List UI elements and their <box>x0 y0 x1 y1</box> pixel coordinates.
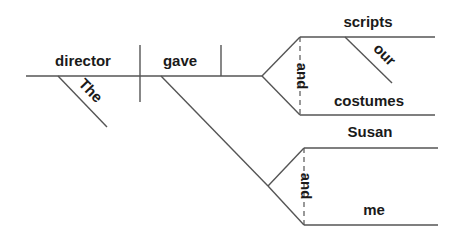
direct-object-2-word: costumes <box>334 92 404 109</box>
verb-word: gave <box>163 52 197 69</box>
direct-object-1-modifier: our <box>370 40 399 69</box>
indirect-object-conjunction: and <box>298 173 315 200</box>
sentence-diagram: director The gave and scripts our costum… <box>0 0 468 239</box>
direct-object-conjunction: and <box>294 63 311 90</box>
direct-object-1-word: scripts <box>343 13 392 30</box>
subject-modifier-word: The <box>76 75 107 106</box>
subject-word: director <box>55 52 111 69</box>
indirect-object-1-word: Susan <box>347 123 392 140</box>
indirect-object-diagonal <box>161 76 268 186</box>
indirect-object-2-word: me <box>363 201 385 218</box>
